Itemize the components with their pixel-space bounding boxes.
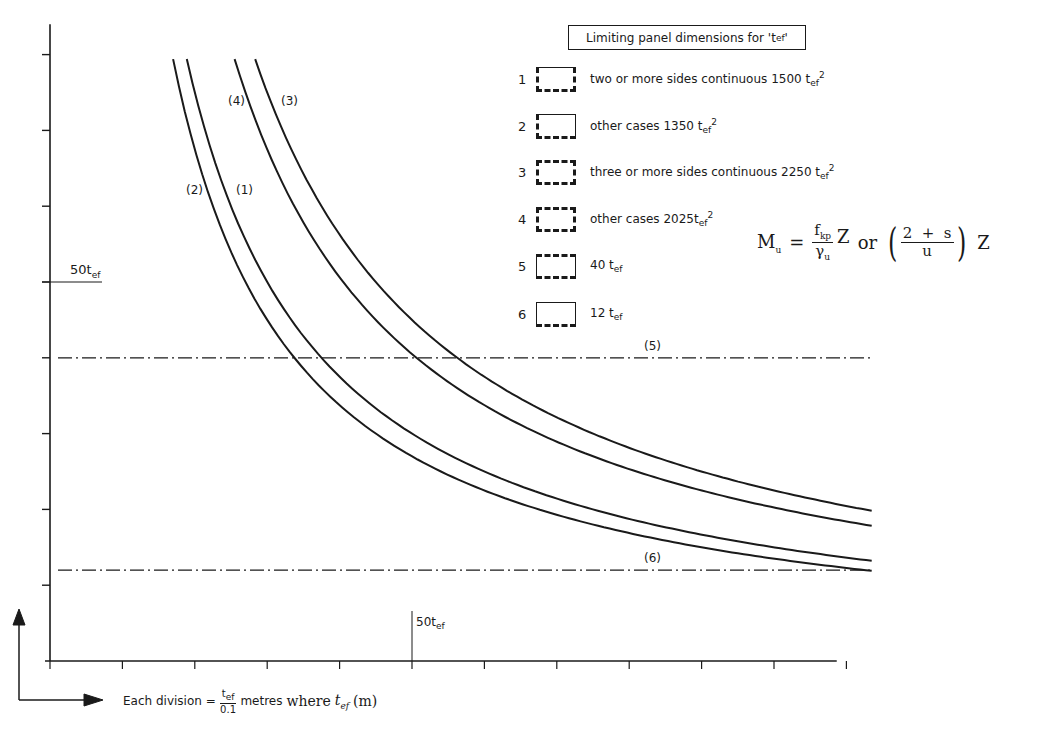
corner-arrows — [13, 609, 103, 706]
legend-item-4: 4 other cases 2025tef2 — [518, 207, 713, 232]
panel-icon-other-cases-four — [536, 207, 576, 232]
legend-text: three or more sides continuous 2250 tef2 — [590, 163, 835, 181]
panel-icon-three-sides-continuous — [536, 160, 576, 185]
arrow-up-icon — [13, 609, 25, 625]
legend-num: 1 — [518, 72, 536, 87]
legend-text: other cases 1350 tef2 — [590, 117, 717, 135]
formula-or: or — [858, 232, 877, 253]
y-marker-label: 50tef — [70, 262, 100, 280]
legend-text: other cases 2025tef2 — [590, 210, 713, 228]
legend-num: 3 — [518, 165, 536, 180]
chart-canvas — [0, 0, 1063, 740]
legend-item-5: 5 40 tef — [518, 254, 623, 279]
panel-icon-other-cases — [536, 114, 576, 139]
legend-title: Limiting panel dimensions for 'tef' — [568, 25, 806, 50]
formula-z2: Z — [977, 232, 990, 253]
panel-icon-two-sides-continuous — [536, 67, 576, 92]
curve-label-5: (5) — [644, 339, 661, 353]
curve-label-1: (1) — [236, 183, 253, 197]
arrow-right-icon — [84, 694, 103, 706]
panel-icon-12tef — [536, 302, 576, 327]
curve-label-3: (3) — [281, 94, 298, 108]
legend-item-1: 1 two or more sides continuous 1500 tef2 — [518, 67, 825, 92]
limit-lines — [58, 358, 872, 570]
moment-formula: Mu = fkp γu Z or ( 2 + s u ) Z — [757, 222, 990, 263]
legend-num: 6 — [518, 307, 536, 322]
formula-lhs: Mu — [757, 231, 781, 255]
legend-text: 12 tef — [590, 306, 623, 322]
curve-label-4: (4) — [228, 94, 245, 108]
legend-item-6: 6 12 tef — [518, 302, 623, 327]
curve-label-2: (2) — [186, 183, 203, 197]
division-fraction: tef 0.1 — [220, 688, 237, 715]
legend-num: 2 — [518, 119, 536, 134]
legend-item-3: 3 three or more sides continuous 2250 te… — [518, 160, 835, 185]
panel-icon-40tef — [536, 254, 576, 279]
legend-num: 4 — [518, 212, 536, 227]
legend-item-2: 2 other cases 1350 tef2 — [518, 114, 717, 139]
formula-frac-2s: 2 + s u — [901, 225, 954, 259]
legend-text: two or more sides continuous 1500 tef2 — [590, 70, 825, 88]
curve-label-6: (6) — [644, 551, 661, 565]
x-axis-caption: Each division = tef 0.1 metres where tef… — [123, 688, 377, 715]
open-paren: ( — [888, 222, 897, 262]
legend-num: 5 — [518, 259, 536, 274]
formula-z1: Z — [837, 226, 850, 247]
formula-eq: = — [789, 232, 804, 253]
close-paren: ) — [957, 222, 966, 262]
x-marker-label: 50tef — [416, 615, 445, 631]
formula-frac-fkp: fkp γu — [812, 222, 833, 263]
legend-text: 40 tef — [590, 258, 623, 274]
